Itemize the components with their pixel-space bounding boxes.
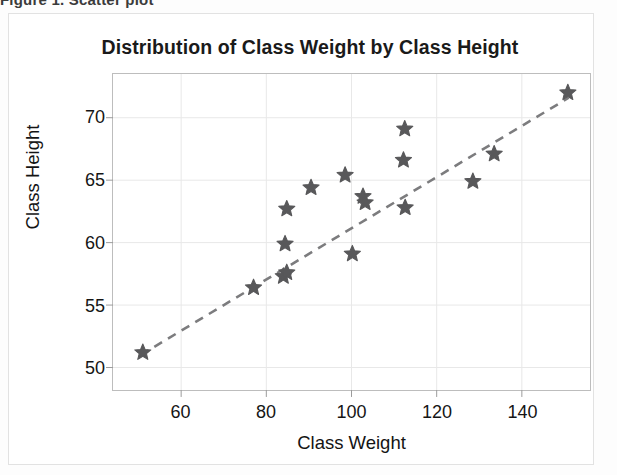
data-point-marker: [486, 145, 502, 160]
data-point-marker: [397, 121, 413, 136]
x-axis-tick-label: 140: [493, 402, 553, 423]
y-axis-tick-label: 60: [65, 232, 105, 253]
data-point-marker: [135, 344, 151, 359]
data-point-marker: [344, 245, 360, 260]
figure-card: Distribution of Class Weight by Class He…: [8, 13, 594, 465]
x-axis-tick-label: 100: [322, 402, 382, 423]
plot-area: [112, 73, 591, 391]
x-axis-tick-label: 80: [236, 402, 296, 423]
y-axis-tick-label: 65: [65, 169, 105, 190]
data-point-marker: [397, 199, 413, 214]
data-points: [113, 74, 590, 390]
data-point-marker: [465, 173, 481, 188]
x-axis-tick-label: 120: [407, 402, 467, 423]
data-point-marker: [337, 167, 353, 182]
data-point-marker: [395, 152, 411, 167]
x-axis-tick-labels: 6080100120140: [112, 402, 591, 426]
x-axis-title: Class Weight: [112, 432, 591, 454]
data-point-marker: [560, 84, 576, 99]
y-axis-tick-labels: 5055606570: [61, 73, 105, 391]
y-axis-tick-label: 55: [65, 295, 105, 316]
x-axis-tick-label: 60: [150, 402, 210, 423]
y-axis-tick-label: 50: [65, 358, 105, 379]
y-axis-tick-label: 70: [65, 106, 105, 127]
data-point-marker: [303, 179, 319, 194]
data-point-marker: [279, 200, 295, 215]
data-point-marker: [245, 279, 261, 294]
chart-title: Distribution of Class Weight by Class He…: [17, 36, 603, 59]
clipped-caption-text: Figure 1. Scatter plot: [0, 0, 617, 9]
data-point-marker: [277, 235, 293, 250]
y-axis-title: Class Height: [22, 97, 44, 257]
